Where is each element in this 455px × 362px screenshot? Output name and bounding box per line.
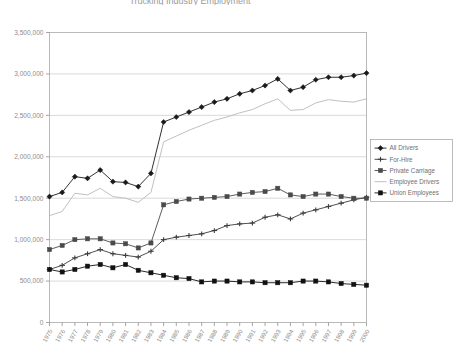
data-point-marker: [339, 281, 343, 285]
data-point-marker: [378, 168, 382, 172]
chart-legend: All DriversFor-HirePrivate CarriageEmplo…: [371, 140, 453, 202]
x-axis-tick-label: 1975: [41, 327, 54, 343]
x-axis-tick-label: 1989: [218, 327, 231, 343]
plot-area-frame: [50, 33, 367, 323]
data-point-marker: [187, 276, 191, 280]
y-axis-tick-label: 3,000,000: [14, 70, 44, 77]
data-point-marker: [378, 191, 382, 195]
chart-container: Trucking Industry Employment 0500,0001,0…: [0, 0, 455, 362]
data-point-marker: [263, 281, 267, 285]
x-axis-tick-label: 1992: [256, 327, 269, 343]
data-point-marker: [263, 189, 267, 193]
data-point-marker: [238, 192, 242, 196]
y-axis-tick-label: 0: [40, 319, 44, 326]
data-point-marker: [276, 281, 280, 285]
chart-title: Trucking Industry Employment: [0, 0, 380, 5]
data-point-marker: [162, 203, 166, 207]
data-point-marker: [200, 196, 204, 200]
data-point-marker: [162, 273, 166, 277]
legend-item-label: All Drivers: [390, 144, 419, 151]
data-point-marker: [288, 193, 292, 197]
data-point-marker: [136, 268, 140, 272]
x-axis-tick-label: 1996: [307, 327, 320, 343]
x-axis-tick-label: 1983: [142, 327, 155, 343]
data-point-marker: [47, 267, 51, 271]
data-point-marker: [174, 199, 178, 203]
data-point-marker: [326, 192, 330, 196]
x-axis-tick-label: 1986: [180, 327, 193, 343]
legend-item-label: Union Employees: [390, 189, 439, 197]
data-point-marker: [225, 279, 229, 283]
y-axis-tick-label: 2,500,000: [14, 112, 44, 119]
data-point-marker: [250, 280, 254, 284]
x-axis-tick-label: 1978: [79, 327, 92, 343]
data-point-marker: [314, 279, 318, 283]
x-axis-tick-label: 1998: [332, 327, 345, 343]
x-axis-tick-label: 1977: [66, 327, 79, 343]
data-point-marker: [352, 196, 356, 200]
data-point-marker: [85, 264, 89, 268]
x-axis-tick-label: 1985: [168, 327, 181, 343]
data-point-marker: [250, 190, 254, 194]
x-axis-tick-label: 1995: [294, 327, 307, 343]
x-axis-tick-label: 1976: [53, 327, 66, 343]
y-axis-tick-label: 3,500,000: [14, 29, 44, 36]
x-axis-tick-label: 1980: [104, 327, 117, 343]
data-point-marker: [326, 280, 330, 284]
x-axis-tick-label: 1979: [91, 327, 104, 343]
data-point-marker: [98, 237, 102, 241]
data-point-marker: [301, 279, 305, 283]
data-point-marker: [352, 282, 356, 286]
legend-item-label: For-Hire: [390, 156, 414, 163]
data-point-marker: [339, 194, 343, 198]
data-point-marker: [111, 266, 115, 270]
x-axis-tick-label: 1988: [206, 327, 219, 343]
data-point-marker: [238, 280, 242, 284]
x-axis-tick-label: 2000: [358, 327, 371, 343]
data-point-marker: [73, 238, 77, 242]
data-point-marker: [136, 246, 140, 250]
x-axis-tick-label: 1999: [345, 327, 358, 343]
x-axis-tick-label: 1981: [117, 327, 130, 343]
data-point-marker: [212, 279, 216, 283]
data-point-marker: [288, 281, 292, 285]
data-point-marker: [111, 241, 115, 245]
y-axis-tick-label: 1,500,000: [14, 195, 44, 202]
data-point-marker: [149, 271, 153, 275]
data-point-marker: [98, 262, 102, 266]
y-axis-tick-label: 500,000: [20, 277, 44, 284]
x-axis-tick-label: 1982: [129, 327, 142, 343]
x-axis-tick-label: 1994: [282, 327, 295, 343]
data-point-marker: [123, 262, 127, 266]
data-point-marker: [60, 243, 64, 247]
x-axis-tick-label: 1984: [155, 327, 168, 343]
data-point-marker: [73, 267, 77, 271]
legend-item-label: Employee Drivers: [390, 178, 440, 186]
y-axis-tick-label: 2,000,000: [14, 153, 44, 160]
data-point-marker: [149, 241, 153, 245]
data-point-marker: [301, 194, 305, 198]
data-point-marker: [364, 196, 368, 200]
data-point-marker: [314, 192, 318, 196]
data-point-marker: [276, 186, 280, 190]
line-chart: 0500,0001,000,0001,500,0002,000,0002,500…: [0, 0, 455, 362]
data-point-marker: [212, 195, 216, 199]
data-point-marker: [225, 194, 229, 198]
data-point-marker: [47, 247, 51, 251]
legend-item-label: Private Carriage: [390, 167, 436, 175]
x-axis-tick-label: 1993: [269, 327, 282, 343]
y-axis-tick-label: 1,000,000: [14, 236, 44, 243]
data-point-marker: [60, 270, 64, 274]
x-axis-tick-label: 1997: [320, 327, 333, 343]
data-point-marker: [85, 237, 89, 241]
data-point-marker: [123, 242, 127, 246]
x-axis-tick-label: 1987: [193, 327, 206, 343]
data-point-marker: [200, 280, 204, 284]
x-axis-tick-label: 1990: [231, 327, 244, 343]
data-point-marker: [364, 283, 368, 287]
x-axis-tick-label: 1991: [244, 327, 257, 343]
data-point-marker: [187, 197, 191, 201]
data-point-marker: [174, 276, 178, 280]
